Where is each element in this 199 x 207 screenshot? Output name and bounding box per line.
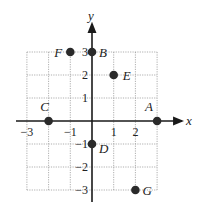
y-tick-label: −3: [75, 183, 88, 197]
y-tick-label: 3: [82, 45, 88, 59]
y-tick-label: 1: [82, 91, 88, 105]
point-b: [88, 48, 97, 57]
x-tick-label: 1: [111, 125, 117, 139]
point-g: [131, 186, 140, 195]
point-a: [153, 117, 162, 126]
point-label-a: A: [144, 99, 153, 114]
point-f: [66, 48, 75, 57]
point-label-e: E: [122, 68, 131, 83]
point-d: [88, 140, 97, 149]
point-label-g: G: [142, 183, 152, 198]
point-label-c: C: [40, 99, 49, 114]
point-label-b: B: [99, 45, 107, 60]
x-tick-label: 2: [132, 125, 138, 139]
coordinate-plane: x y −3−112 321−1−2−3 ABCDEFG: [0, 0, 199, 207]
y-tick-label: −1: [75, 137, 88, 151]
y-tick-label: 2: [82, 68, 88, 82]
y-tick-label: −2: [75, 160, 88, 174]
y-axis-label: y: [86, 8, 94, 23]
point-label-f: F: [53, 45, 63, 60]
point-label-d: D: [98, 141, 109, 156]
x-axis-label: x: [185, 113, 192, 128]
point-c: [44, 117, 53, 126]
point-e: [109, 71, 118, 80]
x-tick-label: −3: [21, 125, 34, 139]
